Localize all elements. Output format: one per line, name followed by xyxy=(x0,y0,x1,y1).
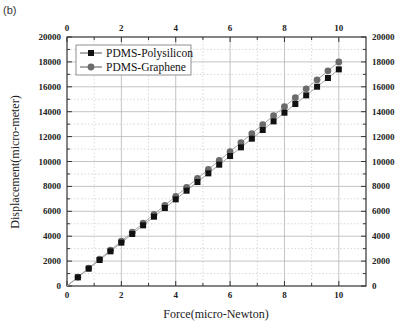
y-axis-title: Displacement(micro-meter) xyxy=(8,95,22,228)
y-tick-label-right: 0 xyxy=(372,281,377,291)
legend-label: PDMS-Polysilicon xyxy=(106,47,193,60)
y-tick-label-right: 18000 xyxy=(372,57,395,67)
legend: PDMS-PolysiliconPDMS-Graphene xyxy=(76,45,193,75)
data-point-square xyxy=(151,214,157,220)
x-tick-label: 8 xyxy=(282,290,287,300)
data-point-square xyxy=(314,84,320,90)
legend-circle-marker-icon xyxy=(88,64,95,71)
y-tick-label-right: 4000 xyxy=(372,231,391,241)
x-tick-label: 10 xyxy=(334,290,344,300)
data-point-square xyxy=(249,136,255,142)
x-tick-label-top: 4 xyxy=(173,23,178,33)
y-tick-label: 20000 xyxy=(39,32,62,42)
x-tick-label-top: 8 xyxy=(282,23,287,33)
x-tick-label: 6 xyxy=(228,290,233,300)
y-tick-label-right: 8000 xyxy=(372,181,391,191)
x-tick-label: 0 xyxy=(65,290,70,300)
y-tick-label-right: 16000 xyxy=(372,82,395,92)
data-point-circle xyxy=(270,112,277,119)
data-point-square xyxy=(281,110,287,116)
data-point-square xyxy=(325,75,331,81)
x-tick-label-top: 10 xyxy=(334,23,344,33)
x-tick-label: 4 xyxy=(173,290,178,300)
data-point-square xyxy=(184,188,190,194)
data-point-square xyxy=(86,266,92,272)
data-point-square xyxy=(303,92,309,98)
y-tick-label: 18000 xyxy=(39,57,62,67)
y-tick-label: 14000 xyxy=(39,107,62,117)
y-tick-label: 8000 xyxy=(43,181,62,191)
y-tick-label: 4000 xyxy=(43,231,62,241)
data-point-square xyxy=(140,222,146,228)
y-tick-label-right: 2000 xyxy=(372,256,391,266)
legend-label: PDMS-Graphene xyxy=(106,61,186,74)
x-tick-label-top: 2 xyxy=(119,23,124,33)
y-tick-label: 12000 xyxy=(39,132,62,142)
y-tick-label: 2000 xyxy=(43,256,62,266)
x-tick-label-top: 0 xyxy=(65,23,70,33)
data-point-circle xyxy=(281,103,288,110)
data-point-square xyxy=(292,101,298,107)
data-point-square xyxy=(205,170,211,176)
data-point-circle xyxy=(292,94,299,101)
y-tick-label: 6000 xyxy=(43,206,62,216)
y-tick-label: 16000 xyxy=(39,82,62,92)
data-point-square xyxy=(194,179,200,185)
data-point-circle xyxy=(303,85,310,92)
y-tick-label-right: 20000 xyxy=(372,32,395,42)
data-point-square xyxy=(129,231,135,237)
x-axis-title: Force(micro-Newton) xyxy=(163,307,268,321)
data-point-square xyxy=(162,205,168,211)
data-point-square xyxy=(227,153,233,159)
data-point-square xyxy=(173,196,179,202)
legend-square-marker-icon xyxy=(88,50,94,56)
y-tick-label-right: 6000 xyxy=(372,206,391,216)
data-point-square xyxy=(238,144,244,150)
data-point-square xyxy=(97,257,103,263)
data-point-square xyxy=(75,274,81,280)
y-tick-label-right: 12000 xyxy=(372,132,395,142)
y-tick-label: 0 xyxy=(57,281,62,291)
y-tick-label-right: 14000 xyxy=(372,107,395,117)
chart: 0022446688101000200020004000400060006000… xyxy=(0,0,404,325)
x-tick-label-top: 6 xyxy=(228,23,233,33)
y-tick-label: 10000 xyxy=(39,157,62,167)
series-layer xyxy=(67,59,342,287)
data-point-square xyxy=(336,66,342,72)
y-tick-label-right: 10000 xyxy=(372,157,395,167)
x-tick-label: 2 xyxy=(119,290,124,300)
data-point-circle xyxy=(335,59,342,66)
data-point-square xyxy=(260,127,266,133)
data-point-square xyxy=(216,162,222,168)
data-point-square xyxy=(118,240,124,246)
data-point-square xyxy=(271,118,277,124)
data-point-circle xyxy=(314,76,321,83)
data-point-square xyxy=(107,248,113,254)
data-point-circle xyxy=(325,67,332,74)
